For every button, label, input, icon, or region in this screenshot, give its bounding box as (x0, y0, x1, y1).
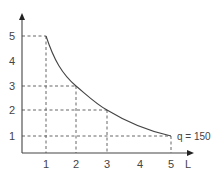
y-tick-3: 3 (9, 80, 15, 92)
x-tick-2: 2 (73, 158, 79, 170)
y-tick-5: 5 (9, 30, 15, 42)
x-tick-3: 3 (104, 158, 110, 170)
x-tick-5: 5 (168, 158, 174, 170)
x-tick-4: 4 (137, 158, 143, 170)
isoquant-chart: 5 4 3 2 1 1 2 3 4 5 L q = 150 (0, 0, 211, 175)
y-tick-2: 2 (9, 104, 15, 116)
x-tick-1: 1 (43, 158, 49, 170)
x-axis-label: L (185, 158, 191, 170)
y-tick-1: 1 (9, 130, 15, 142)
isoquant-curve (46, 36, 171, 136)
curve-label: q = 150 (177, 131, 211, 142)
y-tick-4: 4 (9, 55, 15, 67)
y-axis-arrow-icon (19, 13, 25, 20)
x-axis-arrow-icon (187, 150, 194, 156)
reference-lines (22, 36, 171, 153)
